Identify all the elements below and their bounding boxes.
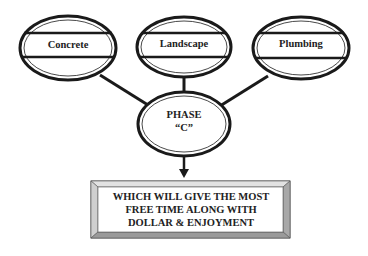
- phase-label-line2: “C”: [175, 122, 193, 133]
- node-concrete: Concrete: [20, 16, 116, 80]
- result-line-3: DOLLAR & ENJOYMENT: [104, 216, 278, 229]
- result-box-text: WHICH WILL GIVE THE MOST FREE TIME ALONG…: [104, 190, 278, 229]
- node-plumbing-label: Plumbing: [279, 38, 324, 49]
- result-line-2: FREE TIME ALONG WITH: [104, 203, 278, 216]
- node-landscape-label: Landscape: [160, 38, 209, 49]
- node-concrete-label: Concrete: [48, 39, 89, 50]
- connector-concrete-phase: [100, 75, 148, 105]
- node-landscape: Landscape: [137, 17, 231, 77]
- node-plumbing: Plumbing: [253, 17, 349, 79]
- phase-label-line1: PHASE: [166, 109, 201, 120]
- arrow-down-icon: [179, 157, 189, 178]
- connector-plumbing-phase: [220, 76, 268, 106]
- node-phase: PHASE “C”: [138, 92, 230, 156]
- result-line-1: WHICH WILL GIVE THE MOST: [104, 190, 278, 203]
